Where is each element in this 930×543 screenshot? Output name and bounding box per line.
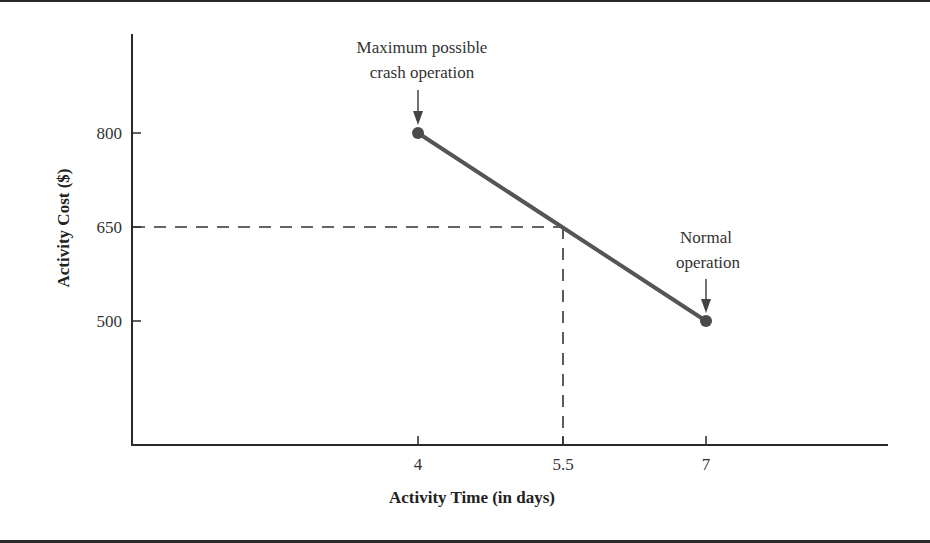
annotation-crash-line2: crash operation [370,63,475,82]
y-tick-label-650: 650 [97,218,123,237]
y-tick-label-800: 800 [97,124,123,143]
x-tick-label-5.5: 5.5 [552,455,573,474]
x-tick-label-7: 7 [702,455,711,474]
crash-point [412,127,424,139]
arrow-down-icon [413,90,423,125]
arrow-down-icon [701,279,711,313]
cost-time-line [418,133,706,321]
annotation-normal-line2: operation [676,253,741,272]
annotation-normal-line1: Normal [680,228,732,247]
y-tick-label-500: 500 [97,312,123,331]
y-axis-title: Activity Cost ($) [54,169,73,288]
annotation-crash-line1: Maximum possible [357,38,488,57]
normal-point [700,315,712,327]
chart-canvas: 800 650 500 4 5.5 7 Activity Time (in da… [0,0,930,543]
x-tick-label-4: 4 [414,455,423,474]
x-axis-title: Activity Time (in days) [389,488,555,507]
